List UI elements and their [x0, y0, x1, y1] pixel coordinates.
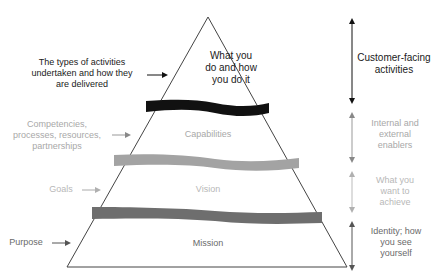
label-line: Internal and [360, 118, 430, 129]
label-capabilities: Capabilities [168, 129, 248, 140]
note-purpose: Purpose [4, 237, 48, 248]
label-line: you see [358, 237, 434, 248]
label-line: undertaken and how they [22, 68, 142, 79]
note-identity: Identity; how you see yourself [358, 226, 434, 259]
label-vision: Vision [168, 184, 248, 195]
label-line: The types of activities [22, 57, 142, 68]
label-line: external [360, 129, 430, 140]
label-line: Competencies, [5, 119, 109, 130]
label-what-you-do: What you do and how you do it [203, 50, 259, 87]
pyramid-diagram: What you do and how you do it Capabiliti… [0, 0, 434, 280]
label-line: do and how [203, 62, 259, 74]
note-want-to-achieve: What you want to achieve [360, 175, 430, 208]
label-line: are delivered [22, 79, 142, 90]
label-mission: Mission [168, 238, 248, 249]
label-line: achieve [360, 197, 430, 208]
note-enablers: Internal and external enablers [360, 118, 430, 151]
note-competencies: Competencies, processes, resources, part… [5, 119, 109, 152]
label-line: want to [360, 186, 430, 197]
note-goals: Goals [44, 184, 78, 195]
label-line: partnerships [5, 141, 109, 152]
label-line: you do it [203, 74, 259, 86]
label-line: Identity; how [358, 226, 434, 237]
note-activities: The types of activities undertaken and h… [22, 57, 142, 90]
note-customer-facing: Customer-facing activities [354, 52, 434, 76]
label-line: Customer-facing [354, 52, 434, 64]
label-line: activities [354, 64, 434, 76]
label-line: yourself [358, 248, 434, 259]
label-line: What you [203, 50, 259, 62]
label-line: What you [360, 175, 430, 186]
label-line: enablers [360, 140, 430, 151]
label-line: processes, resources, [5, 130, 109, 141]
